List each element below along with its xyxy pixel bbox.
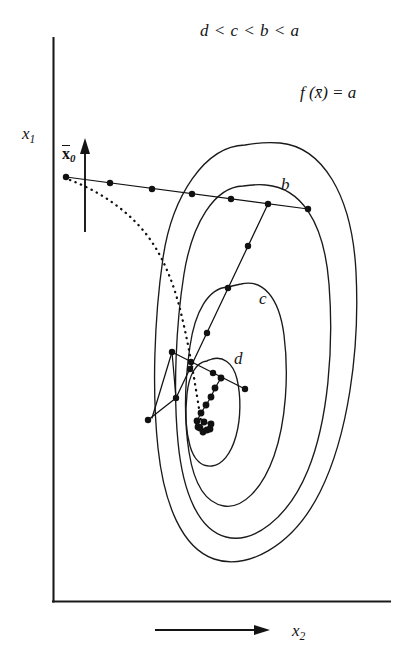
x-axis-label-sub: 2 xyxy=(300,630,306,643)
iterate-point xyxy=(107,180,113,186)
iterate-point xyxy=(305,206,311,212)
iterate-point xyxy=(212,385,219,392)
iterate-point xyxy=(149,186,155,192)
y-axis-label: x1 xyxy=(22,125,35,145)
search-path-converging-zigzag xyxy=(194,375,225,436)
iterate-point xyxy=(245,243,251,249)
iterate-point xyxy=(228,196,234,202)
search-path-segment-1 xyxy=(63,174,311,212)
y-axis-label-base: x xyxy=(22,124,30,143)
iterate-point xyxy=(63,174,69,180)
iterate-point xyxy=(225,285,231,291)
iterate-point xyxy=(201,419,208,426)
iterate-point xyxy=(242,386,248,392)
iterate-point xyxy=(200,429,207,436)
figure-title: d < c < b < a xyxy=(200,22,299,39)
start-point-label-base: x xyxy=(62,146,70,162)
iterate-point xyxy=(194,418,201,425)
figure-container: d < c < b < a f (x̄) = a b c d x0 x1 x2 xyxy=(0,0,412,663)
iterate-point xyxy=(195,424,202,431)
axes-group xyxy=(53,38,390,602)
iterate-point xyxy=(188,359,194,365)
steepest-descent-dotted-curve xyxy=(70,180,201,421)
x-axis-label-base: x xyxy=(292,621,300,640)
iterate-point xyxy=(203,402,210,409)
start-point-label-sub: 0 xyxy=(70,152,75,164)
search-path-segment-3 xyxy=(145,349,176,423)
iterate-point xyxy=(204,330,210,336)
iterate-point xyxy=(218,375,225,382)
contour-label-a: f (x̄) = a xyxy=(300,84,356,101)
contour-label-d: d xyxy=(234,350,243,367)
x-axis-arrow-icon xyxy=(155,625,270,635)
iterate-point xyxy=(207,426,214,433)
iterate-point xyxy=(145,417,151,423)
contour-label-b: b xyxy=(281,176,290,193)
x-axis-label: x2 xyxy=(292,622,305,642)
contour-level-c xyxy=(186,283,287,506)
contour-level-a xyxy=(155,143,357,562)
iterate-point xyxy=(189,191,195,197)
iterate-point xyxy=(210,370,216,376)
iterate-point xyxy=(187,366,193,372)
contour-label-c: c xyxy=(259,290,267,307)
y-axis-label-sub: 1 xyxy=(30,133,36,146)
iterate-point xyxy=(208,394,215,401)
iterate-point xyxy=(198,410,205,417)
start-point-label: x0 xyxy=(62,146,75,164)
